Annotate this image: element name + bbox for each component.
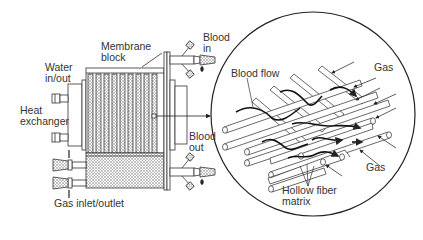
blood-out-port — [170, 153, 215, 190]
label-hollow-line2: matrix — [282, 196, 337, 207]
label-blood-in-line2: in — [203, 43, 230, 54]
label-water-in-out: Water in/out — [45, 62, 73, 84]
label-membrane-block: Membrane block — [101, 41, 151, 63]
label-gas-top: Gas — [374, 62, 393, 73]
label-heat-exchanger: Heat exchanger — [20, 105, 69, 127]
label-blood-out: Blood out — [189, 131, 216, 153]
label-heat-line2: exchanger — [20, 116, 69, 127]
label-blood-out-line2: out — [189, 142, 216, 153]
label-water-line2: in/out — [45, 73, 73, 84]
gas-ports — [53, 150, 86, 198]
membrane-block — [86, 52, 170, 190]
label-membrane-line2: block — [101, 52, 151, 63]
oxygenator-device — [52, 41, 215, 198]
label-gas-inlet-outlet: Gas inlet/outlet — [54, 198, 124, 209]
label-blood-in: Blood in — [203, 32, 230, 54]
label-hollow-fiber-matrix: Hollow fiber matrix — [282, 185, 337, 207]
label-gas-bottom: Gas — [366, 162, 385, 173]
label-blood-flow: Blood flow — [231, 68, 279, 79]
